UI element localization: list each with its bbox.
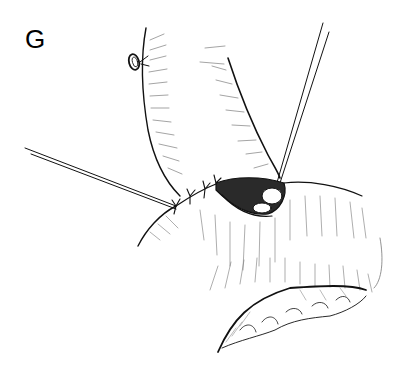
bowel-segment-upper (142, 28, 280, 196)
surgical-illustration (0, 0, 405, 384)
anastomosis-opening (216, 178, 285, 217)
suture-ring (127, 53, 149, 71)
stay-suture-left (25, 148, 176, 209)
stay-suture-right (276, 23, 329, 186)
mesentery (218, 286, 366, 352)
